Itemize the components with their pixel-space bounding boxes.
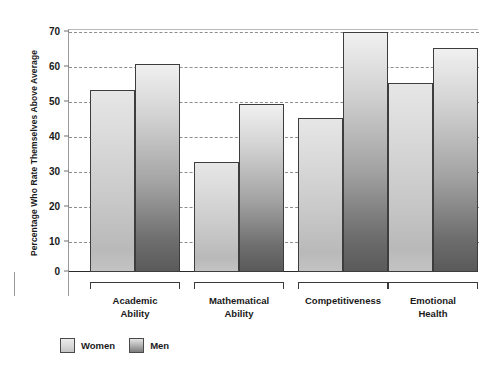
y-tick-label-50: 50 [22, 96, 60, 107]
category-label-line1: Emotional [378, 295, 488, 308]
category-label-mathematical-ability: Mathematical Ability [184, 295, 294, 320]
y-axis-title: Percentage Who Rate Themselves Above Ave… [29, 23, 39, 283]
legend-swatch-women-icon [60, 338, 75, 353]
y-tick-label-60: 60 [22, 61, 60, 72]
y-tick-label-0: 0 [22, 266, 60, 277]
axis-stub-below-zero [68, 272, 69, 296]
legend-label-women: Women [81, 340, 115, 351]
bar-group-academic-ability [90, 29, 180, 272]
bar-women-competitiveness [298, 118, 343, 272]
y-tick-label-70: 70 [22, 26, 60, 37]
bar-group-mathematical-ability [194, 29, 284, 272]
y-tick-label-30: 30 [22, 166, 60, 177]
legend-swatch-men-icon [129, 338, 144, 353]
bar-men-mathematical-ability [239, 104, 284, 272]
y-tick-label-10: 10 [22, 236, 60, 247]
bar-women-academic-ability [90, 90, 135, 272]
bar-women-emotional-health [388, 83, 433, 272]
category-label-line2: Ability [184, 308, 294, 321]
bar-men-emotional-health [433, 48, 478, 272]
category-label-line1: Mathematical [184, 295, 294, 308]
bar-women-mathematical-ability [194, 162, 239, 272]
legend-item-women: Women [60, 338, 115, 353]
bar-men-competitiveness [343, 32, 388, 272]
y-tick-label-40: 40 [22, 131, 60, 142]
bar-men-academic-ability [135, 64, 180, 272]
bar-group-emotional-health [388, 29, 478, 272]
bars-container [68, 29, 478, 272]
category-label-academic-ability: Academic Ability [80, 295, 190, 320]
legend-item-men: Men [129, 338, 169, 353]
category-label-line2: Health [378, 308, 488, 321]
category-bracket-mathematical-ability [194, 282, 284, 289]
chart-legend: Women Men [60, 338, 169, 353]
category-bracket-academic-ability [90, 282, 180, 289]
legend-label-men: Men [150, 340, 169, 351]
category-bracket-emotional-health [388, 282, 478, 289]
bar-chart-figure: Percentage Who Rate Themselves Above Ave… [0, 0, 498, 368]
category-label-line2: Ability [80, 308, 190, 321]
bar-group-competitiveness [298, 29, 388, 272]
outer-frame-stub [14, 272, 15, 296]
y-tick-label-20: 20 [22, 201, 60, 212]
category-label-emotional-health: Emotional Health [378, 295, 488, 320]
category-bracket-competitiveness [298, 282, 388, 289]
category-label-line1: Academic [80, 295, 190, 308]
